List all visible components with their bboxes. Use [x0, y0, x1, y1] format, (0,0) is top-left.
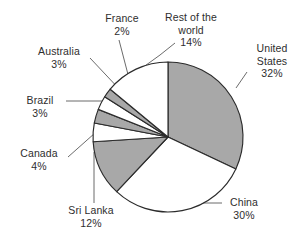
slice-label-united-value: 32%: [244, 67, 300, 80]
slice-label-brazil-name: Brazil: [12, 94, 68, 107]
slice-label-srilanka-name: Sri Lanka: [54, 204, 128, 217]
slice-label-united-name-line2: States: [244, 55, 300, 68]
slice-label-canada: Canada 4%: [10, 147, 68, 172]
slice-label-china-name: China: [216, 196, 272, 209]
slice-label-france-name: France: [92, 12, 152, 25]
slice-label-australia-name: Australia: [26, 45, 92, 58]
slice-label-australia-value: 3%: [26, 58, 92, 71]
slice-label-canada-value: 4%: [10, 160, 68, 173]
slice-label-rest-value: 14%: [154, 36, 228, 49]
slice-label-srilanka-value: 12%: [54, 217, 128, 230]
slice-label-sri-lanka: Sri Lanka 12%: [54, 204, 128, 229]
slice-label-brazil: Brazil 3%: [12, 94, 68, 119]
slice-label-united-name-line1: United: [244, 42, 300, 55]
pie-chart-figure: France 2% Rest of the world 14% United S…: [0, 0, 302, 243]
slice-label-rest-of-the-world: Rest of the world 14%: [154, 11, 228, 49]
slice-label-france-value: 2%: [92, 25, 152, 38]
slice-label-france: France 2%: [92, 12, 152, 37]
slice-label-australia: Australia 3%: [26, 45, 92, 70]
slice-label-united-states: United States 32%: [244, 42, 300, 80]
slice-label-china: China 30%: [216, 196, 272, 221]
slice-label-rest-name-line2: world: [154, 24, 228, 37]
pie-slices: [93, 62, 243, 212]
slice-label-rest-name-line1: Rest of the: [154, 11, 228, 24]
slice-label-china-value: 30%: [216, 209, 272, 222]
slice-label-brazil-value: 3%: [12, 107, 68, 120]
slice-label-canada-name: Canada: [10, 147, 68, 160]
